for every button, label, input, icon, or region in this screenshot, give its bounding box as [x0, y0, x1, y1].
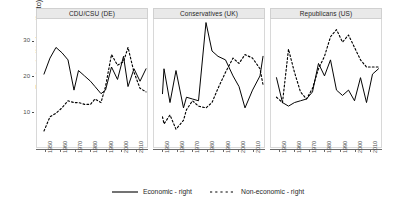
legend-swatch-dotted	[210, 190, 236, 194]
x-tick-label: 2000	[357, 141, 363, 153]
facet-title: Conservatives (UK)	[180, 10, 238, 17]
x-tick-mark	[192, 149, 193, 152]
y-axis: Emphasis (% of manifesto)	[14, 0, 34, 213]
x-tick-mark	[309, 149, 310, 152]
y-tick-label: 10	[14, 109, 30, 115]
facet-title: CDU/CSU (DE)	[69, 10, 115, 17]
chart-legend: Economic - right Non-economic - right	[0, 188, 416, 195]
x-tick-mark	[340, 149, 341, 152]
series-line	[162, 23, 263, 108]
facet-panel: Conservatives (UK)	[153, 8, 265, 148]
x-tick-mark	[136, 149, 137, 152]
legend-item-economic-right[interactable]: Economic - right	[112, 188, 192, 195]
x-tick-mark	[162, 149, 163, 152]
x-tick-label: 1960	[296, 141, 302, 153]
facet-strip: Republicans (US)	[270, 8, 382, 19]
x-tick-label: 2000	[240, 141, 246, 153]
y-tick-mark	[32, 112, 35, 113]
x-tick-mark	[253, 149, 254, 152]
x-tick-label: 1960	[179, 141, 185, 153]
plot-area	[270, 19, 382, 148]
x-tick-mark	[45, 149, 46, 152]
x-tick-mark	[370, 149, 371, 152]
x-tick-label: 2010	[138, 141, 144, 153]
x-tick-mark	[75, 149, 76, 152]
x-tick-mark	[223, 149, 224, 152]
x-tick-mark	[60, 149, 61, 152]
x-tick-label: 1960	[62, 141, 68, 153]
x-tick-label: 1990	[225, 141, 231, 153]
x-tick-mark	[106, 149, 107, 152]
series-line	[44, 47, 146, 93]
x-tick-label: 2010	[372, 141, 378, 153]
legend-swatch-solid	[112, 190, 138, 194]
series-line	[44, 47, 146, 131]
y-tick-mark	[32, 41, 35, 42]
x-tick-label: 1990	[108, 141, 114, 153]
series-line	[162, 55, 263, 130]
x-tick-label: 1970	[311, 141, 317, 153]
facet-panel: Republicans (US)	[270, 8, 382, 148]
plot-area	[153, 19, 265, 148]
x-tick-label: 1980	[92, 141, 98, 153]
facet-title: Republicans (US)	[300, 10, 353, 17]
x-tick-mark	[279, 149, 280, 152]
x-tick-label: 1970	[77, 141, 83, 153]
x-tick-mark	[294, 149, 295, 152]
facet-panel: CDU/CSU (DE)	[36, 8, 148, 148]
x-tick-label: 1980	[326, 141, 332, 153]
x-tick-label: 2000	[123, 141, 129, 153]
facet-strip: Conservatives (UK)	[153, 8, 265, 19]
x-tick-mark	[355, 149, 356, 152]
series-line	[276, 30, 378, 103]
chart-figure: Emphasis (% of manifesto) 102030 CDU/CSU…	[0, 0, 416, 213]
y-tick-label: 20	[14, 73, 30, 79]
legend-label-non-economic-right: Non-economic - right	[241, 188, 304, 195]
x-tick-label: 1980	[209, 141, 215, 153]
legend-label-economic-right: Economic - right	[143, 188, 192, 195]
x-tick-mark	[121, 149, 122, 152]
x-tick-label: 1970	[194, 141, 200, 153]
x-tick-mark	[177, 149, 178, 152]
legend-item-non-economic-right[interactable]: Non-economic - right	[210, 188, 304, 195]
series-line	[276, 60, 378, 106]
x-tick-label: 2010	[255, 141, 261, 153]
x-tick-label: 1950	[164, 141, 170, 153]
x-tick-mark	[238, 149, 239, 152]
x-tick-label: 1950	[281, 141, 287, 153]
y-tick-mark	[32, 76, 35, 77]
x-tick-label: 1990	[342, 141, 348, 153]
plot-area	[36, 19, 148, 148]
facet-strip: CDU/CSU (DE)	[36, 8, 148, 19]
y-tick-label: 30	[14, 37, 30, 43]
x-tick-label: 1950	[47, 141, 53, 153]
